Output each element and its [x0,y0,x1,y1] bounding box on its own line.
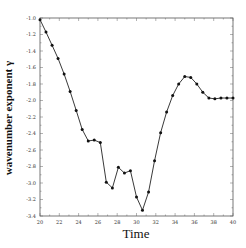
x-tick-label: 24 [75,219,81,225]
data-point-marker [165,111,168,114]
data-point-marker [195,83,198,86]
data-point-marker [99,141,102,144]
data-point-marker [189,76,192,79]
data-point-marker [129,169,132,172]
y-tick-label: -2.0 [26,97,36,103]
y-tick-label: -1.0 [26,15,36,21]
x-tick-labels: 2022242628303234363840 [37,219,236,225]
x-axis-label: Time [123,226,150,241]
data-point-marker [63,73,66,76]
data-point-marker [111,186,114,189]
data-point-marker [159,131,162,134]
data-point-marker [232,97,235,100]
data-point-marker [93,139,96,142]
x-tick-label: 32 [153,219,159,225]
x-tick-label: 20 [37,219,43,225]
data-point-marker [44,31,47,34]
plot-frame [40,18,233,216]
data-point-marker [135,196,138,199]
x-tick-label: 28 [114,219,120,225]
x-tick-label: 38 [211,219,217,225]
data-point-marker [171,94,174,97]
data-point-marker [225,97,228,100]
data-point-marker [219,97,222,100]
y-tick-label: -1.2 [26,31,36,37]
y-tick-label: -2.2 [26,114,36,120]
data-point-marker [87,139,90,142]
x-tick-label: 30 [133,219,139,225]
line-chart: 2022242628303234363840 -1.0-1.2-1.4-1.6-… [0,0,246,248]
data-point-marker [213,97,216,100]
x-tick-label: 40 [230,219,236,225]
y-tick-label: -2.6 [26,147,36,153]
data-point-marker [51,44,54,47]
data-point-marker [207,97,210,100]
data-point-marker [57,57,60,60]
data-point-marker [123,172,126,175]
y-tick-label: -3.0 [26,180,36,186]
y-tick-label: -1.8 [26,81,36,87]
y-axis-label: wavenumber exponent γ [2,61,14,175]
data-point-marker [75,109,78,112]
data-point-marker [81,128,84,131]
y-tick-label: -3.2 [26,196,36,202]
y-tick-label: -1.4 [26,48,36,54]
series-line [40,20,233,211]
data-point-marker [117,166,120,169]
y-tick-label: -2.4 [26,130,36,136]
data-point-marker [105,181,108,184]
data-point-marker [201,91,204,94]
data-point-marker [69,90,72,93]
axis-ticks [40,18,233,216]
data-point-marker [141,209,144,212]
x-tick-label: 22 [56,219,62,225]
data-series [39,18,235,212]
x-tick-label: 34 [172,219,178,225]
data-point-marker [153,159,156,162]
y-tick-labels: -1.0-1.2-1.4-1.6-1.8-2.0-2.2-2.4-2.6-2.8… [26,15,36,219]
x-tick-label: 36 [191,219,197,225]
x-tick-label: 26 [95,219,101,225]
y-tick-label: -1.6 [26,64,36,70]
data-point-marker [183,75,186,78]
y-tick-label: -3.4 [26,213,36,219]
y-tick-label: -2.8 [26,163,36,169]
data-point-marker [177,83,180,86]
data-point-marker [39,18,42,21]
data-point-marker [147,191,150,194]
